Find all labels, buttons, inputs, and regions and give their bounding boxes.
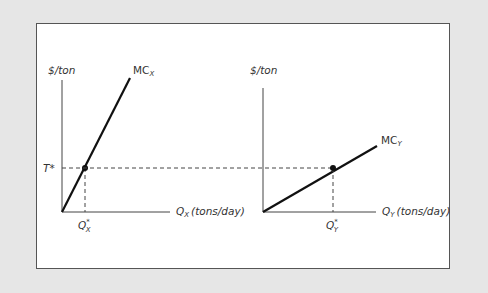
mc-x-curve: [62, 78, 130, 212]
right-y-axis-label: $/ton: [250, 64, 277, 76]
q-y-star-label: Q*Y: [326, 218, 339, 234]
t-star-label: T*: [43, 162, 55, 174]
mc-diagram: $/ton MCX QX(tons/day) T* Q*X $/ton MCY …: [0, 0, 488, 293]
mc-y-label: MCY: [381, 134, 402, 148]
left-y-axis-label: $/ton: [48, 64, 75, 76]
mc-y-curve: [263, 146, 377, 212]
left-x-axis-label: QX(tons/day): [176, 205, 245, 219]
right-panel: $/ton MCY QY(tons/day) Q*Y: [250, 64, 450, 234]
q-x-star-label: Q*X: [78, 218, 91, 234]
equilibrium-point-y: [330, 165, 336, 171]
right-x-axis-label: QY(tons/day): [382, 205, 450, 219]
mc-x-label: MCX: [133, 64, 154, 78]
left-panel: $/ton MCX QX(tons/day) T* Q*X: [43, 64, 245, 234]
